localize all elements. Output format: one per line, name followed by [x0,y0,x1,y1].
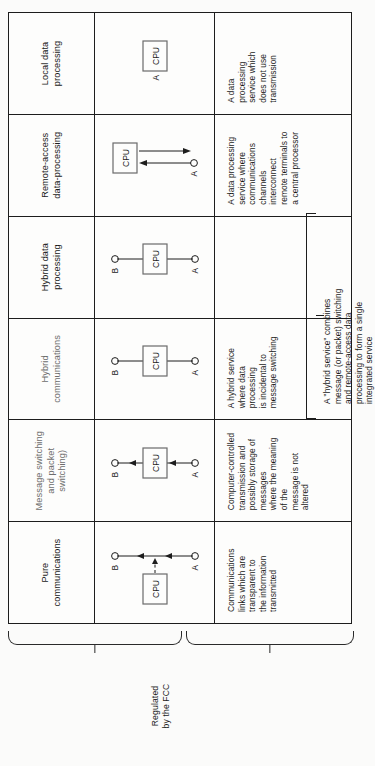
diagram-pure-communications: CPU A B [95,522,214,623]
node-label-b: B [110,471,120,477]
column-header-label: Pure communications [14,526,89,619]
cpu-label: CPU [151,47,161,65]
description-cell-message-switching: Computer-controlled transmission and pos… [215,419,351,521]
node-label-a: A [189,171,199,177]
header-cell-message-switching: Message switching and packet switching) [9,419,95,521]
diagram-hybrid-communications: CPU A B [95,319,214,420]
header-cell-remote-access-data-processing: Remote-access data-processing [9,114,95,216]
description-cell-pure-communications: Communications links which are transpare… [215,521,351,623]
node-label-a: A [190,471,200,477]
diagram-cell-hybrid-communications: CPU A B [95,318,215,420]
description-text: A data processing service where communic… [220,119,300,212]
description-text [220,221,226,314]
cpu-label: CPU [151,580,161,598]
diagram-remote-access-data-processing: CPU A [95,115,214,216]
node-label-b: B [110,564,120,570]
cpu-label: CPU [151,250,161,268]
caption-regulated-by-fcc: Regulated by the FCC [150,652,172,760]
node-label-b: B [110,268,120,274]
cpu-label: CPU [151,352,161,370]
diagram-cell-remote-access-data-processing: CPU A [95,114,215,216]
column-header-label: Local data processing [14,17,89,110]
column-header-label: Hybrid data processing [14,221,89,314]
cpu-label: CPU [121,149,131,167]
brace-regulated-group [186,631,354,645]
header-cell-pure-communications: Pure communications [9,521,95,623]
spectrum-table: Pure communications Message switching an… [8,12,352,624]
column-header-label: Remote-access data-processing [14,119,89,212]
header-cell-local-data-processing: Local data processing [9,13,95,114]
description-cell-local-data-processing: A data processing service which does not… [215,13,351,114]
brace-separate-group [8,631,182,645]
diagram-cell-local-data-processing: CPU A [95,13,215,114]
hybrid-service-note: A "hybrid service" combines message (or … [322,194,375,404]
column-header-label: Message switching and packet switching) [14,424,89,517]
node-label-a: A [190,268,200,274]
diagram-cell-pure-communications: CPU A B [95,521,215,623]
node-label-a: A [190,370,200,376]
diagram-hybrid-data-processing: CPU A B [95,217,214,318]
description-text: Computer-controlled transmission and pos… [220,424,311,517]
cpu-label: CPU [151,454,161,472]
node-label-b: B [110,370,120,376]
column-header-label: Hybrid communications [14,323,89,416]
diagram-cell-hybrid-data-processing: CPU A B [95,216,215,318]
header-cell-hybrid-communications: Hybrid communications [9,318,95,420]
description-text: Communications links which are transpare… [220,526,279,619]
diagram-local-data-processing: CPU A [95,13,214,114]
node-label-a: A [190,564,200,570]
description-text: A hybrid service where data processing i… [220,323,279,416]
hybrid-service-bracket [306,213,316,419]
diagram-message-switching: CPU A B [95,420,214,521]
description-text: A data processing service which does not… [220,17,279,110]
header-cell-hybrid-data-processing: Hybrid data processing [9,216,95,318]
node-label-a: A [151,75,161,81]
table-diagram-row: CPU A B [95,13,215,623]
table-header-row: Pure communications Message switching an… [9,13,95,623]
diagram-cell-message-switching: CPU A B [95,419,215,521]
